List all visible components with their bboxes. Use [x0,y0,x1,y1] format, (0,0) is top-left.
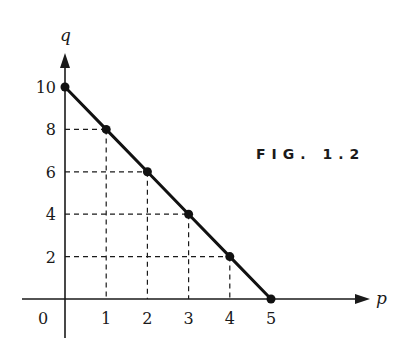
dashed-guides [65,129,230,299]
data-point-marker [225,252,234,261]
x-tick-label: 2 [142,309,152,328]
data-point-marker [102,125,111,134]
x-tick-label: 1 [101,309,111,328]
y-tick-label: 10 [36,78,56,97]
y-axis-arrow-icon [60,53,70,68]
figure-caption: FIG. 1.2 [256,146,365,162]
data-point-marker [61,83,70,92]
y-tick-label: 8 [46,120,56,139]
x-tick-label: 5 [266,309,276,328]
y-axis-label: q [60,25,71,45]
x-tick-label: 3 [184,309,194,328]
y-tick-label: 2 [46,248,56,267]
tick-labels: 012345246810 [36,78,276,328]
data-series [61,83,276,304]
demand-line [65,87,271,299]
data-point-marker [267,295,276,304]
y-tick-label: 4 [46,205,56,224]
data-point-marker [143,167,152,176]
chart: 012345246810 p q FIG. 1.2 [0,0,409,354]
x-axis-arrow-icon [355,294,370,304]
x-tick-label: 4 [225,309,235,328]
y-tick-label: 6 [46,163,56,182]
x-axis-label: p [376,288,387,308]
data-point-marker [184,210,193,219]
x-tick-label: 0 [38,309,48,328]
